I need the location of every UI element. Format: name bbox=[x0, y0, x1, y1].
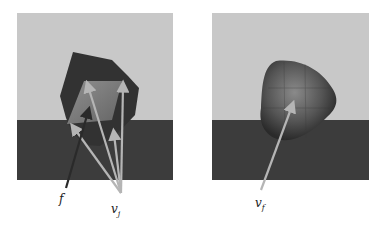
left-panel: f vj bbox=[17, 13, 173, 218]
label-vf: vf bbox=[255, 196, 267, 212]
label-vj: vj bbox=[111, 202, 121, 218]
figure-canvas: f vj vf bbox=[0, 0, 385, 226]
right-panel: vf bbox=[212, 13, 369, 212]
figure: f vj vf bbox=[0, 0, 385, 226]
label-f: f bbox=[58, 192, 66, 206]
